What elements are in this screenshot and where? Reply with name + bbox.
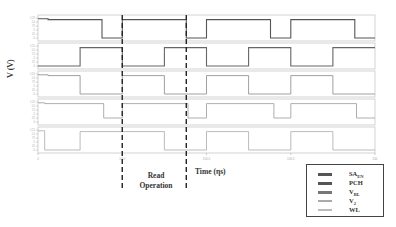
y-tick-label: .25 <box>31 60 35 64</box>
x-axis-label: Time (ηs) <box>195 167 226 176</box>
y-tick-label: 1.25 <box>30 44 36 48</box>
legend-swatch <box>318 200 332 202</box>
series-line-pch <box>38 48 375 66</box>
y-tick-label: 1.25 <box>30 128 36 132</box>
y-tick-label: 0 <box>34 36 36 40</box>
legend: SAEN PCH VBL V2 WL <box>306 164 384 217</box>
y-tick-label: 1.25 <box>30 72 36 76</box>
legend-item-sa-en: SAEN <box>307 169 383 178</box>
legend-label-main: PCH <box>349 179 363 186</box>
y-tick-label: .25 <box>31 32 35 36</box>
series-line-v-2 <box>38 103 375 118</box>
y-tick-label: .25 <box>31 88 35 92</box>
y-tick-label: 1.0 <box>31 104 35 108</box>
y-tick-label: .25 <box>31 144 35 148</box>
y-tick-label: .75 <box>31 108 35 112</box>
y-tick-label: .75 <box>31 136 35 140</box>
y-tick-label: 0 <box>34 92 36 96</box>
x-tick-label: 150.0 <box>287 157 295 161</box>
y-tick-label: .5 <box>33 84 36 88</box>
y-tick-label: .5 <box>33 112 36 116</box>
series-line-wl <box>38 131 375 150</box>
y-axis-label: V (V) <box>6 59 15 78</box>
y-tick-label: .5 <box>33 140 36 144</box>
legend-item-v-2: V2 <box>307 196 383 205</box>
y-tick-label: .5 <box>33 56 36 60</box>
legend-swatch <box>318 173 332 176</box>
y-tick-label: .25 <box>31 116 35 120</box>
y-tick-label: 1.0 <box>31 20 35 24</box>
annotation-line1: Read <box>131 171 181 181</box>
y-tick-label: 1.0 <box>31 76 35 80</box>
y-tick-label: .75 <box>31 24 35 28</box>
legend-item-pch: PCH <box>307 178 383 187</box>
legend-swatch <box>318 191 332 194</box>
read-operation-annotation: Read Operation <box>131 171 181 191</box>
y-tick-label: 0 <box>34 148 36 152</box>
legend-swatch <box>318 182 332 185</box>
x-tick-label: 200 <box>372 157 377 161</box>
series-line-sa-en <box>38 19 375 38</box>
annotation-line2: Operation <box>131 181 181 191</box>
y-tick-label: .75 <box>31 80 35 84</box>
y-tick-label: 1.0 <box>31 48 35 52</box>
y-tick-label: 1.25 <box>30 16 36 20</box>
x-tick-label: 0 <box>37 157 39 161</box>
y-tick-label: .75 <box>31 52 35 56</box>
y-tick-label: 0 <box>34 64 36 68</box>
legend-item-wl: WL <box>307 205 383 214</box>
legend-swatch <box>318 209 332 211</box>
y-tick-label: 1.0 <box>31 132 35 136</box>
y-tick-label: 0 <box>34 120 36 124</box>
legend-label: WL <box>349 205 360 217</box>
legend-item-v-bl: VBL <box>307 187 383 196</box>
y-tick-label: 1.25 <box>30 100 36 104</box>
series-line-v-bl <box>38 75 375 94</box>
x-tick-label: 100.0 <box>203 157 211 161</box>
y-tick-label: .5 <box>33 28 36 32</box>
legend-label-main: WL <box>349 206 360 213</box>
